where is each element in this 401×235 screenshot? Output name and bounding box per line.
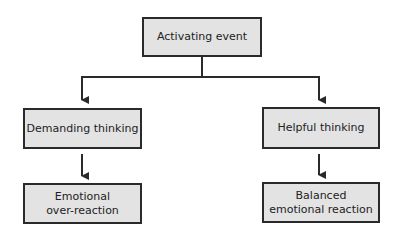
overreaction-label-line1: Emotional (55, 190, 110, 204)
demanding-thinking-box: Demanding thinking (23, 108, 142, 149)
helpful-thinking-label: Helpful thinking (277, 121, 364, 135)
balanced-label-line1: Balanced (296, 189, 347, 203)
overreaction-label-line2: over-reaction (46, 204, 119, 218)
activating-event-box: Activating event (142, 17, 262, 57)
balanced-label-line2: emotional reaction (269, 203, 373, 217)
balanced-reaction-box: Balanced emotional reaction (262, 182, 380, 223)
activating-event-label: Activating event (157, 30, 247, 44)
demanding-thinking-label: Demanding thinking (27, 122, 139, 136)
helpful-thinking-box: Helpful thinking (262, 107, 380, 149)
emotional-overreaction-box: Emotional over-reaction (23, 183, 142, 224)
